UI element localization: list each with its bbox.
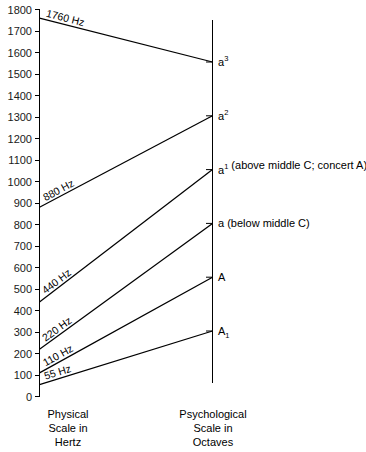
left-axis-tick-labels: 1800170016001500140013001200110010009008… xyxy=(8,4,32,403)
left-axis-tick-label: 1400 xyxy=(8,90,32,102)
note-label: a3 xyxy=(218,54,228,68)
right-caption-line-1: Psychological xyxy=(179,408,246,420)
note-label: a1 (above middle C; concert A) xyxy=(218,159,366,176)
left-axis-tick-label: 200 xyxy=(14,348,32,360)
left-axis-tick-label: 500 xyxy=(14,283,32,295)
mapping-line xyxy=(40,223,213,349)
left-axis-tick-label: 600 xyxy=(14,262,32,274)
left-axis: 1800170016001500140013001200110010009008… xyxy=(8,4,40,403)
frequency-labels: 1760 Hz880 Hz440 Hz220 Hz110 Hz55 Hz xyxy=(39,7,85,382)
left-caption-line-1: Physical xyxy=(48,408,89,420)
mapping-line xyxy=(40,18,213,62)
left-axis-tick-label: 1100 xyxy=(8,154,32,166)
left-axis-tick-label: 1700 xyxy=(8,25,32,37)
right-axis-note-ticks xyxy=(206,62,213,331)
left-axis-tick-label: 1200 xyxy=(8,133,32,145)
left-axis-tick-label: 1300 xyxy=(8,111,32,123)
left-caption-line-3: Hertz xyxy=(55,436,81,448)
left-axis-tick-label: 100 xyxy=(14,369,32,381)
right-axis-note-labels: a3a2a1 (above middle C; concert A)a (bel… xyxy=(218,54,366,340)
scale-mapping-chart: 1800170016001500140013001200110010009008… xyxy=(0,0,366,452)
left-axis-tick-label: 0 xyxy=(26,391,32,403)
right-axis-caption: Psychological Scale in Octaves xyxy=(179,408,246,448)
left-caption-line-2: Scale in xyxy=(48,422,87,434)
frequency-label: 880 Hz xyxy=(41,177,76,203)
left-axis-tick-label: 700 xyxy=(14,240,32,252)
left-axis-tick-label: 300 xyxy=(14,326,32,338)
note-label: A1 xyxy=(218,325,230,340)
left-axis-tick-label: 400 xyxy=(14,305,32,317)
note-label: a2 xyxy=(218,108,228,122)
mapping-line xyxy=(40,116,213,208)
right-caption-line-2: Scale in xyxy=(193,422,232,434)
right-caption-line-3: Octaves xyxy=(193,436,234,448)
left-axis-tick-label: 800 xyxy=(14,219,32,231)
note-label: a (below middle C) xyxy=(218,217,310,229)
right-axis: a3a2a1 (above middle C; concert A)a (bel… xyxy=(206,20,366,383)
frequency-label: 440 Hz xyxy=(39,266,73,296)
left-axis-ticks xyxy=(35,10,40,397)
note-label: A xyxy=(218,271,226,283)
left-axis-tick-label: 1800 xyxy=(8,4,32,16)
figure-canvas: 1800170016001500140013001200110010009008… xyxy=(0,0,366,452)
left-axis-tick-label: 1600 xyxy=(8,47,32,59)
left-axis-tick-label: 1500 xyxy=(8,68,32,80)
left-axis-caption: Physical Scale in Hertz xyxy=(48,408,89,448)
left-axis-tick-label: 1000 xyxy=(8,176,32,188)
frequency-label: 110 Hz xyxy=(41,342,75,368)
left-axis-tick-label: 900 xyxy=(14,197,32,209)
